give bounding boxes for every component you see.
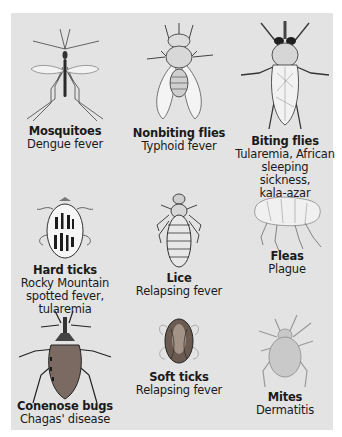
housefly-icon	[129, 19, 229, 127]
figure-panel: Mosquitoes Dengue fever Nonbiting flies …	[11, 13, 333, 430]
soft-tick-icon	[129, 313, 229, 369]
mosquito-icon	[15, 21, 115, 121]
vector-hard-ticks: Hard ticks Rocky Mountain spotted fever,…	[15, 195, 115, 310]
vector-disease: Chagas' disease	[15, 413, 115, 426]
vector-lice: Lice Relapsing fever	[129, 191, 229, 306]
vector-mosquitoes: Mosquitoes Dengue fever	[15, 21, 115, 156]
vector-nonbiting-flies: Nonbiting flies Typhoid fever	[129, 19, 229, 159]
conenose-bug-icon	[15, 309, 115, 405]
vector-disease: Relapsing fever	[129, 384, 229, 397]
vector-disease: Typhoid fever	[129, 140, 229, 153]
vector-mites: Mites Dermatitis	[235, 313, 335, 423]
vector-disease: Plague	[237, 263, 337, 276]
louse-icon	[129, 191, 229, 271]
vector-soft-ticks: Soft ticks Relapsing fever	[129, 313, 229, 393]
flea-icon	[237, 193, 337, 255]
vector-disease-line: sleeping sickness,	[235, 161, 335, 187]
vector-conenose-bugs: Conenose bugs Chagas' disease	[15, 309, 115, 429]
mite-icon	[235, 313, 335, 391]
horsefly-icon	[235, 17, 335, 135]
vector-fleas: Fleas Plague	[237, 193, 337, 293]
vector-disease: Dengue fever	[15, 138, 115, 151]
vector-biting-flies: Biting flies Tularemia, African sleeping…	[235, 17, 335, 197]
vector-disease: Relapsing fever	[129, 285, 229, 298]
vector-disease: Dermatitis	[235, 404, 335, 417]
hard-tick-icon	[15, 195, 115, 261]
